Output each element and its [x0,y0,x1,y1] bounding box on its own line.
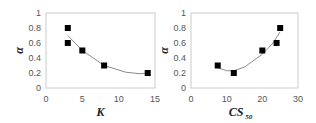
y-tick-label: 0.8 [173,23,186,33]
chart-panel-k: 00.20.40.60.81051015αK [12,8,160,119]
data-point-marker [101,63,107,69]
data-point-marker [65,25,71,31]
data-point-marker [231,70,237,76]
y-tick-label: 0 [36,83,41,93]
plot-frame [191,13,298,88]
data-point-marker [277,25,283,31]
data-point-marker [259,48,265,54]
x-tick-label: 10 [114,94,124,104]
y-tick-label: 0.4 [28,53,41,63]
x-tick-label: 5 [80,94,85,104]
x-axis-label: CS50 [229,105,253,121]
y-tick-label: 0.6 [173,38,186,48]
data-point-marker [145,70,151,76]
data-point-marker [215,63,221,69]
y-tick-label: 0.6 [28,38,41,48]
chart-figure: 00.20.40.60.81051015αK00.20.40.60.810102… [0,0,316,123]
x-tick-label: 0 [188,94,193,104]
data-point-marker [274,40,280,46]
x-tick-label: 20 [257,94,267,104]
x-tick-label: 15 [150,94,160,104]
x-tick-label: 10 [222,94,232,104]
plot-frame [46,13,155,88]
x-tick-label: 30 [293,94,303,104]
y-tick-label: 1 [181,8,186,18]
chart-panel-cs50: 00.20.40.60.810102030αCS50 [157,8,303,121]
y-tick-label: 0.2 [28,68,41,78]
x-tick-label: 0 [43,94,48,104]
data-point-marker [65,40,71,46]
trend-line [218,32,280,71]
y-axis-label: α [12,47,26,54]
y-tick-label: 0.4 [173,53,186,63]
x-axis-label: K [95,105,105,119]
y-tick-label: 0 [181,83,186,93]
y-axis-label: α [157,47,171,54]
y-tick-label: 0.2 [173,68,186,78]
data-point-marker [79,48,85,54]
y-tick-label: 1 [36,8,41,18]
trend-line [68,36,148,74]
y-tick-label: 0.8 [28,23,41,33]
